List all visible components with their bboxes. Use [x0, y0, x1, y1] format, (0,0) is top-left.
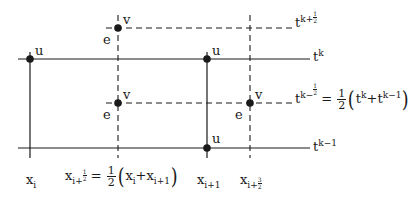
coefficient-half: 12: [337, 88, 346, 111]
space-label-x-i-plus-1: xi+1: [197, 173, 221, 186]
equals-sign: =: [91, 168, 102, 183]
time-label-t-k-plus-half: tk+12: [295, 16, 317, 29]
node-label-v: v: [255, 88, 262, 101]
node-u-dot: [26, 55, 34, 63]
time-label-t-k-minus-half: tk−12 = 12(tk+tk−1): [295, 88, 410, 111]
node-v-dot: [246, 99, 254, 107]
node-label-u: u: [212, 44, 220, 57]
coefficient-half: 12: [107, 165, 116, 188]
node-label-e: e: [235, 108, 243, 121]
time-label-t-k: tk: [313, 50, 324, 63]
node-label-u: u: [212, 132, 220, 145]
space-label-x-i-plus-half: xi+12 = 12(xi+xi+1): [65, 165, 179, 188]
equals-sign: =: [321, 91, 332, 106]
node-label-e: e: [103, 33, 111, 46]
node-v-dot: [114, 24, 122, 32]
node-v-dot: [114, 99, 122, 107]
node-label-v: v: [123, 88, 130, 101]
node-u-dot: [203, 144, 211, 152]
node-label-u: u: [35, 44, 43, 57]
node-label-e: e: [103, 108, 111, 121]
space-label-x-i: xi: [26, 173, 36, 186]
space-label-x-i-plus-3-half: xi+32: [240, 173, 262, 186]
time-label-t-k-minus-1: tk−1: [313, 140, 337, 153]
node-label-v: v: [123, 13, 130, 26]
node-u-dot: [203, 55, 211, 63]
